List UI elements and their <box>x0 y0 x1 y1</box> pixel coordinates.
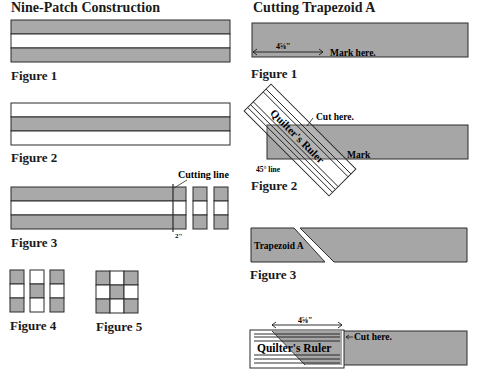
quilters-ruler-flat: Quilter's Ruler <box>250 330 344 368</box>
diagram-canvas: Cutting line 2" 4⅝" Mark here. <box>0 0 487 376</box>
ruler-text-4: Quilter's Ruler <box>257 342 331 354</box>
strip-set-cut <box>11 184 228 232</box>
mark-here-label: Mark here. <box>330 48 376 58</box>
cutting-line-label: Cutting line <box>178 169 229 180</box>
mark-label: Mark <box>347 150 371 160</box>
angle-line-label: 45° line <box>256 165 281 174</box>
nine-patch-block <box>96 271 138 313</box>
strip-set-dark-light-dark <box>11 20 230 62</box>
segment-width-label: 2" <box>175 232 183 240</box>
cut-here-label-2: Cut here. <box>316 112 354 122</box>
trapezoid-a-label: Trapezoid A <box>254 241 304 251</box>
strip-set-light-dark-light <box>11 103 230 145</box>
remaining-strip <box>300 228 467 262</box>
cut-here-label-4: Cut here. <box>354 332 392 342</box>
measurement-label-4: 4⅝" <box>298 316 312 325</box>
measurement-label-1: 4⅝" <box>276 42 290 51</box>
nine-patch-columns <box>10 270 64 312</box>
